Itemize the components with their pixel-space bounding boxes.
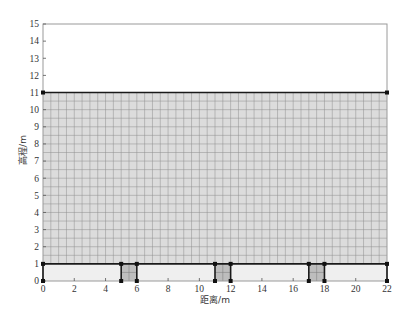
node-marker: [119, 279, 123, 283]
x-tick-label: 22: [382, 284, 392, 294]
y-tick-label: 13: [30, 54, 40, 64]
node-marker: [135, 262, 139, 266]
node-marker: [385, 262, 389, 266]
y-tick-label: 8: [34, 139, 39, 149]
x-tick-label: 14: [257, 284, 267, 294]
x-tick-label: 8: [166, 284, 171, 294]
y-tick-label: 4: [34, 208, 39, 218]
y-tick-label: 1: [34, 259, 39, 269]
y-tick-label: 15: [30, 19, 40, 29]
node-marker: [119, 262, 123, 266]
node-marker: [307, 262, 311, 266]
y-tick-label: 2: [34, 242, 39, 252]
x-tick-label: 20: [351, 284, 361, 294]
node-marker: [213, 279, 217, 283]
node-marker: [213, 262, 217, 266]
y-tick-label: 7: [34, 156, 39, 166]
node-marker: [135, 279, 139, 283]
node-marker: [229, 279, 233, 283]
y-tick-label: 3: [34, 225, 39, 235]
y-tick-label: 11: [30, 88, 39, 98]
x-tick-label: 16: [288, 284, 298, 294]
x-tick-label: 18: [320, 284, 330, 294]
node-marker: [41, 91, 45, 95]
x-tick-label: 2: [72, 284, 77, 294]
node-marker: [385, 91, 389, 95]
node-marker: [322, 279, 326, 283]
x-tick-label: 10: [195, 284, 205, 294]
x-axis-label: 距离/m: [200, 294, 230, 305]
x-tick-label: 12: [226, 284, 236, 294]
y-axis-label: 高程/m: [17, 135, 28, 165]
y-tick-label: 12: [30, 71, 40, 81]
y-tick-label: 6: [34, 174, 39, 184]
x-tick-label: 0: [41, 284, 46, 294]
node-marker: [41, 262, 45, 266]
node-marker: [229, 262, 233, 266]
node-marker: [307, 279, 311, 283]
chart-canvas: 0246810121416182022012345678910111213141…: [0, 0, 407, 320]
y-tick-label: 14: [30, 36, 40, 46]
plot-area: 0246810121416182022012345678910111213141…: [0, 0, 407, 320]
x-tick-label: 6: [134, 284, 139, 294]
y-tick-label: 10: [30, 105, 40, 115]
node-marker: [385, 279, 389, 283]
y-tick-label: 9: [34, 122, 39, 132]
node-marker: [322, 262, 326, 266]
x-tick-label: 4: [103, 284, 108, 294]
y-tick-label: 0: [34, 276, 39, 286]
node-marker: [41, 279, 45, 283]
y-tick-label: 5: [34, 191, 39, 201]
